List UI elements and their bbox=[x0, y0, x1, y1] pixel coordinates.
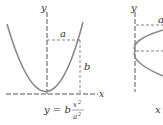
y-axis-label-left: y bbox=[40, 2, 47, 13]
equation-numerator: x bbox=[73, 101, 77, 109]
y-axis-label-right: y bbox=[130, 2, 137, 13]
label-a-left: a bbox=[60, 28, 66, 39]
figure-left-upward-parabola: y x a b y = b x 2 a 2 bbox=[6, 2, 104, 121]
figure-right-sideways-parabola: y a x bbox=[130, 2, 163, 115]
equation-right-start: x bbox=[155, 104, 161, 115]
equation-denominator: a bbox=[73, 113, 77, 121]
sideways-parabola-curve bbox=[134, 30, 163, 76]
equation-denominator-exp: 2 bbox=[77, 111, 81, 117]
label-b-left: b bbox=[84, 61, 90, 72]
label-a-right: a bbox=[158, 14, 163, 25]
x-axis-label-left: x bbox=[99, 89, 104, 99]
parabola-diagram: y x a b y = b x 2 a 2 y a x bbox=[0, 0, 163, 125]
equation-lhs: y = b bbox=[43, 104, 71, 115]
equation-numerator-exp: 2 bbox=[77, 99, 81, 105]
upward-parabola-curve bbox=[7, 22, 83, 92]
